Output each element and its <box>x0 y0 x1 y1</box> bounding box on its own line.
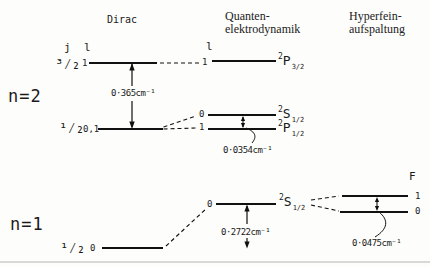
n1-j12-label: ¹⁄₂ <box>60 241 85 255</box>
n1-lamb-shift-value: 0·2722cm⁻¹ <box>221 228 270 237</box>
n2-lamb-shift-value: 0·0354cm⁻¹ <box>223 146 272 155</box>
n1-qed-l-label: 0 <box>207 200 212 209</box>
n2-qed-l-top-label: 1 <box>202 58 207 67</box>
arrow-up-icon <box>244 205 249 212</box>
l-axis-label-dirac: l <box>84 42 91 53</box>
arrow-down-icon <box>375 206 379 211</box>
term-symbol-2p32: 2P3/2 <box>278 52 303 68</box>
n2-dirac-l-top-label: 1 <box>82 59 87 68</box>
arrow-up-icon <box>129 63 134 71</box>
n1-dash-to-s12 <box>166 208 207 246</box>
hf-f1-label: 1 <box>415 192 420 201</box>
n1-dash-to-f1 <box>311 196 339 200</box>
hydrogen-energy-level-diagram: Dirac Quanten-elektrodynamik Hyperfein-a… <box>0 0 430 267</box>
n1-dirac-l-label: 0 <box>90 244 95 253</box>
n2-dash-to-s12 <box>164 116 197 127</box>
term-symbol-2s12-n1: 2S1/2 <box>279 193 304 209</box>
fine-structure-splitting-value: 0·365cm⁻¹ <box>111 89 155 98</box>
column-header-qed: Quanten-elektrodynamik <box>225 10 300 36</box>
hf-f0-label: 0 <box>415 207 420 216</box>
arrow-up-icon <box>241 116 245 121</box>
n2-lamb-leader-curve <box>246 128 255 143</box>
n2-dirac-l-bottom-label: 0,1 <box>83 125 99 134</box>
f-axis-label: F <box>409 171 416 182</box>
j-axis-label: j <box>64 42 71 53</box>
n2-dash-to-p12 <box>164 128 197 129</box>
n2-qed-l-p-label: 1 <box>199 123 204 132</box>
arrow-down-icon <box>241 123 245 128</box>
n1-label: n=1 <box>10 216 44 233</box>
n1-dash-to-f0 <box>311 205 339 211</box>
column-header-hyperfine: Hyperfein-aufspaltung <box>349 10 405 36</box>
column-header-dirac: Dirac <box>107 15 137 25</box>
l-axis-label-qed: l <box>206 41 213 52</box>
arrow-down-icon <box>244 242 249 249</box>
arrow-down-icon <box>129 122 134 130</box>
n2-label: n=2 <box>8 88 42 105</box>
term-symbol-2p12: 2P1/2 <box>278 119 303 135</box>
hyperfine-splitting-value: 0·0475cm⁻¹ <box>352 239 401 248</box>
n2-qed-l-s-label: 0 <box>199 110 204 119</box>
n2-j32-label: ³⁄₂ <box>55 57 80 71</box>
arrow-up-icon <box>375 197 379 202</box>
hf-leader-curve <box>375 212 386 237</box>
n2-j12-label: ¹⁄₂ <box>59 121 84 135</box>
